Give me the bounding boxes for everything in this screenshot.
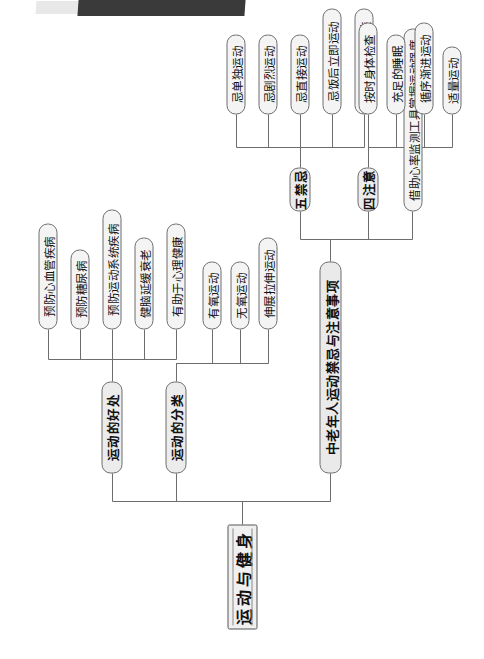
mindmap-canvas: 运动与健身 运动的好处 预防心血管疾病 预防糖尿病 预防运动系统疾病 健脑延缓衰… xyxy=(0,0,484,659)
leaf-node-no-solo-exercise[interactable]: 忌单独运动 xyxy=(226,34,245,114)
leaf-node-brain-health-aging[interactable]: 健脑延缓衰老 xyxy=(134,237,153,329)
leaf-node-enough-sleep[interactable]: 充足的睡眠 xyxy=(386,34,405,114)
subbranch-node-five-taboos[interactable]: 五禁忌 xyxy=(289,167,310,211)
branch-node-categories[interactable]: 运动的分类 xyxy=(165,381,186,473)
leaf-node-anaerobic[interactable]: 无氧运动 xyxy=(230,261,249,329)
leaf-node-stretching[interactable]: 伸展拉伸运动 xyxy=(258,237,277,329)
mindmap-root-node[interactable]: 运动与健身 xyxy=(227,524,257,629)
leaf-node-no-intense-exercise[interactable]: 忌剧烈运动 xyxy=(258,34,277,114)
leaf-node-prevent-cardiovascular[interactable]: 预防心血管疾病 xyxy=(38,223,57,329)
branch-node-senior-precautions[interactable]: 中老年人运动禁忌与注意事项 xyxy=(319,261,341,473)
leaf-node-gradual-progress[interactable]: 循序渐进运动 xyxy=(414,22,433,114)
leaf-node-prevent-motor-system-disease[interactable]: 预防运动系统疾病 xyxy=(102,209,121,329)
leaf-node-mental-health[interactable]: 有助于心理健康 xyxy=(166,223,185,329)
subbranch-node-four-cautions[interactable]: 四注意 xyxy=(357,167,378,211)
leaf-node-regular-checkup[interactable]: 按时身体检查 xyxy=(358,22,377,114)
branch-node-benefits[interactable]: 运动的好处 xyxy=(101,381,122,473)
leaf-node-no-exercise-after-meal[interactable]: 忌饭后立即运动 xyxy=(322,8,341,114)
leaf-node-moderate-exercise[interactable]: 适量运动 xyxy=(442,46,461,114)
leaf-node-no-direct-exercise[interactable]: 忌直接运动 xyxy=(290,34,309,114)
leaf-node-prevent-diabetes[interactable]: 预防糖尿病 xyxy=(70,249,89,329)
leaf-node-aerobic[interactable]: 有氧运动 xyxy=(202,261,221,329)
